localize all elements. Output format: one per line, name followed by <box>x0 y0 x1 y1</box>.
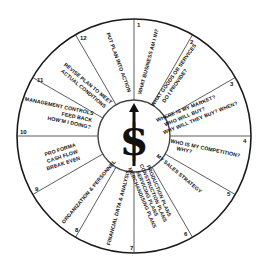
segment-number-12: 12 <box>80 35 87 41</box>
business-planning-wheel: $ 1 2 3 4 5 6 7 8 9 10 11 12 WHAT BUSINE… <box>0 0 264 269</box>
svg-text:$: $ <box>119 116 148 165</box>
segment-number-11: 11 <box>37 77 44 83</box>
segment-number-10: 10 <box>20 129 27 135</box>
